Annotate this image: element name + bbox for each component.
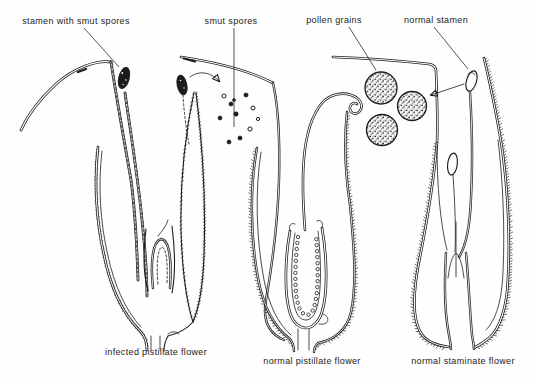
inner-anther-filament: [453, 175, 455, 252]
leader-pollen-grains: [349, 27, 376, 70]
pollen-grain: [367, 115, 398, 146]
inner-channel-line: [437, 145, 447, 250]
ovule-stalk: [158, 220, 168, 236]
botanical-figure: stamen with smut spores smut spores poll…: [0, 0, 533, 380]
right-bract-inner: [486, 140, 504, 330]
base-flare: [168, 332, 179, 334]
smut-anther: [175, 74, 189, 96]
pollen-grains-drawing: [365, 72, 427, 146]
emergent-style-arc: [21, 62, 111, 130]
label-smut-spores: smut spores: [205, 16, 258, 26]
label-pollen-grains: pollen grains: [306, 15, 362, 25]
inner-anther: [446, 152, 458, 175]
smut-release-arrow: [190, 73, 219, 81]
smut-disease-diagram: stamen with smut spores smut spores poll…: [0, 0, 533, 380]
infected-pistillate-flower-drawing: [21, 62, 206, 351]
caption-infected-pistillate-flower: infected pistillate flower: [105, 347, 207, 357]
pollen-grain: [398, 92, 427, 121]
left-bract-outer-edge: [96, 147, 147, 350]
tube-inner-line: [265, 83, 284, 340]
infected-stamen: [116, 66, 131, 89]
leader-normal-stamen: [434, 27, 468, 69]
label-normal-stamen: normal stamen: [404, 15, 468, 25]
ovule-bead-lining: [294, 235, 320, 316]
label-stamen-with-smut-spores: stamen with smut spores: [22, 16, 130, 26]
style-with-curled-stigma: [303, 94, 362, 230]
smut-spore-dots: [218, 93, 260, 144]
ovule-hook-inner: [157, 247, 167, 284]
tube-inner-line: [21, 62, 111, 130]
tube-inner-line: [152, 239, 171, 288]
normal-stamen-anther: [464, 70, 479, 93]
hair-texture: [179, 94, 194, 318]
smut-spores-drawing: [175, 57, 284, 340]
pollen-grain: [365, 72, 397, 104]
stamen-filament: [459, 92, 472, 257]
open-bract-right-edge: [265, 83, 284, 340]
ovary: [286, 220, 328, 328]
right-bract-left-edge: [181, 92, 194, 322]
ovary: [144, 220, 175, 293]
caption-normal-staminate-flower: normal staminate flower: [411, 356, 515, 366]
caption-normal-pistillate-flower: normal pistillate flower: [263, 356, 360, 366]
ovary-right-wall: [172, 226, 175, 293]
